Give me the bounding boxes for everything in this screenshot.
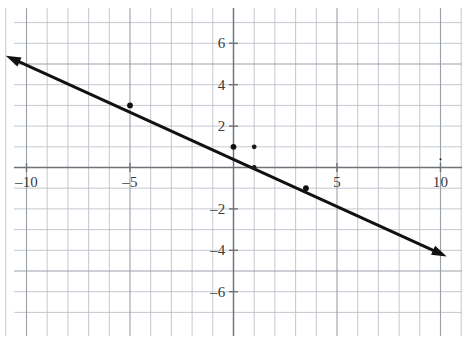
y-tick-label: 4 [218,77,226,92]
y-tick-label: 6 [218,36,226,51]
data-point [127,103,133,109]
y-tick-label: –2 [210,201,225,216]
x-tick-label: –10 [15,175,38,190]
x-tick-label: 5 [333,175,341,190]
data-point [252,165,257,170]
data-point [440,158,442,160]
y-tick-label: 2 [218,119,226,134]
graph-canvas [0,0,468,344]
data-point [303,185,309,191]
y-tick-label: –6 [210,284,225,299]
x-tick-label: –5 [122,175,137,190]
data-point [231,144,237,150]
data-point [252,144,257,149]
y-tick-label: –4 [210,243,225,258]
coordinate-graph: –10–5510 642–2–4–6 [0,0,468,344]
x-tick-label: 10 [433,175,448,190]
